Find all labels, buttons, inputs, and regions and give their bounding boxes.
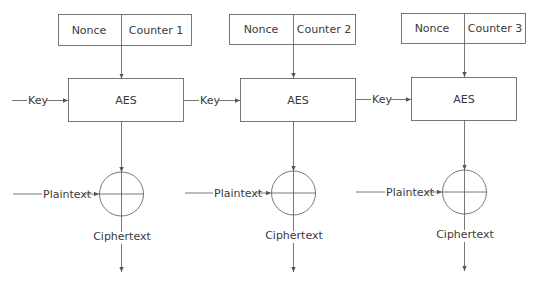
plaintext-label: Plaintext (43, 188, 92, 201)
plaintext-label: Plaintext (386, 186, 435, 199)
ctr-block-2: Nonce Counter 2 AES Key Plaintext Cipher… (184, 15, 356, 273)
ctr-mode-diagram: Nonce Counter 1 AES Key Plaintext Cipher… (0, 0, 539, 288)
ctr-block-1: Nonce Counter 1 AES Key Plaintext Cipher… (12, 15, 192, 273)
ciphertext-label: Ciphertext (265, 229, 323, 242)
key-label: Key (372, 93, 392, 106)
aes-label: AES (115, 94, 136, 107)
ctr-block-3: Nonce Counter 3 AES Key Plaintext Cipher… (356, 14, 526, 272)
key-label: Key (200, 94, 220, 107)
ciphertext-label: Ciphertext (436, 228, 494, 241)
aes-label: AES (453, 93, 474, 106)
counter-label: Counter 3 (468, 22, 522, 35)
aes-label: AES (287, 94, 308, 107)
key-label: Key (28, 94, 48, 107)
ciphertext-label: Ciphertext (93, 230, 151, 243)
nonce-label: Nonce (415, 22, 450, 35)
counter-label: Counter 1 (129, 24, 183, 37)
nonce-label: Nonce (244, 23, 279, 36)
plaintext-label: Plaintext (214, 187, 263, 200)
nonce-label: Nonce (72, 24, 107, 37)
counter-label: Counter 2 (297, 23, 351, 36)
